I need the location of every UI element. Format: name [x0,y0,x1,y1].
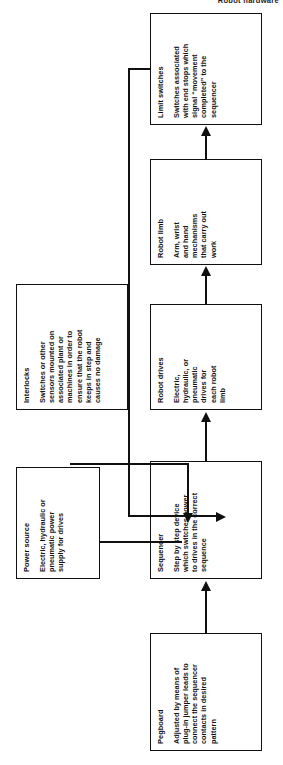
edge-feedback-drop-line [128,515,221,517]
node-sequencer: Sequencer Step by step device which swit… [150,461,262,579]
diagram-canvas: Pegboard Adjusted by means of plug-in ju… [0,0,283,765]
node-robot-limb: Robot limb Arm, wrist and hand mechanism… [150,159,262,265]
edge-sequencer-to-robot-drives-line [205,421,207,461]
edge-robot-limb-to-limit-switches-line [205,135,207,159]
edge-robot-drives-to-robot-limb-arrowhead-icon [201,266,211,276]
node-robot-drives-body: Electric, hydraulic, or pneumatic drives… [172,311,228,403]
node-interlocks-body: Switches or other sensors mounted on ass… [38,291,103,403]
node-robot-drives-title: Robot drives [156,311,166,403]
node-pegboard-title: Pegboard [156,640,166,744]
node-limit-switches-title: Limit switches [156,20,166,118]
edge-pegboard-to-sequencer-line [205,589,207,633]
edge-robot-limb-to-limit-switches-arrowhead-icon [201,126,211,136]
edge-sequencer-to-robot-drives-arrowhead-icon [201,412,211,422]
node-interlocks-title: Interlocks [22,291,32,403]
edge-robot-drives-to-robot-limb-line [205,274,207,304]
node-interlocks: Interlocks Switches or other sensors mou… [16,284,128,410]
edge-power-source-to-sequencer-line [100,541,182,543]
node-robot-drives: Robot drives Electric, hydraulic, or pne… [150,304,262,410]
node-sequencer-title: Sequencer [156,468,166,572]
edge-feedback-riser-line [128,68,151,70]
node-limit-switches-body: Switches associated with end stops which… [172,20,218,118]
node-power-source: Power source Electric, hydraulic or pneu… [16,467,100,579]
edge-feedback-to-sequencer-arrowhead-icon [216,512,226,522]
edge-feedback-span-line [128,68,130,517]
node-pegboard: Pegboard Adjusted by means of plug-in ju… [150,633,262,751]
node-robot-limb-body: Arm, wrist and hand mechanisms that carr… [172,166,218,258]
node-robot-limb-title: Robot limb [156,166,166,258]
node-power-source-body: Electric, hydraulic or pneumatic power s… [38,474,66,572]
node-limit-switches: Limit switches Switches associated with … [150,13,262,125]
node-power-source-title: Power source [22,474,32,572]
edge-pegboard-to-sequencer-arrowhead-icon [201,581,211,591]
diagram-rotated-group: Pegboard Adjusted by means of plug-in ju… [0,0,283,765]
node-pegboard-body: Adjusted by means of plug-in jumper lead… [172,640,218,744]
